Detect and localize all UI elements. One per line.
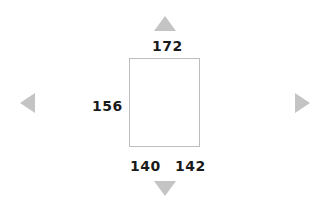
left-arrow-icon[interactable] xyxy=(20,93,35,113)
bottom-left-dimension-label: 140 xyxy=(130,158,161,174)
right-arrow-icon[interactable] xyxy=(295,93,310,113)
left-dimension-label: 156 xyxy=(92,98,123,114)
top-dimension-label: 172 xyxy=(152,38,183,54)
down-arrow-icon[interactable] xyxy=(154,181,176,196)
bottom-right-dimension-label: 142 xyxy=(175,158,206,174)
up-arrow-icon[interactable] xyxy=(154,16,176,31)
rectangle-shape xyxy=(129,58,200,147)
